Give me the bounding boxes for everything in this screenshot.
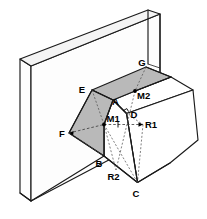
- label-E: E: [79, 84, 85, 95]
- label-M1: M1: [107, 113, 121, 124]
- label-M2: M2: [137, 90, 150, 101]
- label-D: D: [131, 109, 138, 120]
- dot-M1: [102, 123, 106, 127]
- label-F: F: [59, 128, 65, 139]
- label-A: A: [112, 96, 119, 107]
- label-R1: R1: [145, 119, 158, 130]
- label-G: G: [138, 57, 145, 68]
- geometry-canvas: G E M2 A D M1 R1 F B R2 C: [0, 0, 207, 219]
- label-C: C: [133, 188, 140, 199]
- label-B: B: [96, 158, 103, 169]
- label-R2: R2: [107, 171, 119, 182]
- geometry-figure: G E M2 A D M1 R1 F B R2 C: [0, 0, 207, 219]
- plate-left-edge-face: [20, 59, 31, 201]
